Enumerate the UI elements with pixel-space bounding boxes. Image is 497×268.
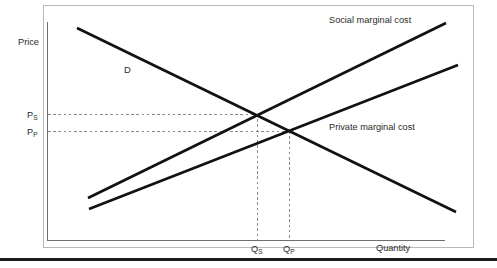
private-marginal-cost-label: Private marginal cost [329,122,415,132]
quantity-tick-qp-base: Q [283,244,290,254]
quantity-tick-qs-base: Q [251,244,258,254]
quantity-tick-qs: QS [251,244,263,255]
price-tick-pp-subscript: P [33,131,38,138]
price-tick-ps: PS [27,110,38,121]
quantity-tick-qp-subscript: P [290,248,295,255]
demand-curve [77,28,456,212]
x-axis-label: Quantity [376,243,411,253]
social-marginal-cost-curve [88,23,446,198]
externality-diagram: Price Quantity D Social marginal cost Pr… [0,0,497,268]
social-marginal-cost-label: Social marginal cost [329,15,412,25]
quantity-tick-qs-subscript: S [258,248,263,255]
diagram-canvas: Price Quantity D Social marginal cost Pr… [0,0,497,268]
demand-curve-label: D [124,64,131,75]
quantity-tick-qp: QP [283,244,295,255]
price-tick-pp: PP [27,127,38,138]
price-tick-ps-subscript: S [33,114,38,121]
y-axis-label: Price [18,37,39,47]
